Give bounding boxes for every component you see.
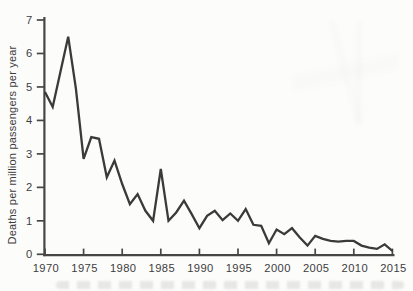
- y-tick-label: 2: [26, 181, 33, 193]
- y-tick-label: 5: [26, 81, 33, 93]
- x-tick-label: 1970: [33, 262, 60, 274]
- y-tick-label: 4: [26, 114, 33, 126]
- y-tick-label: 3: [26, 148, 33, 160]
- axes: [43, 17, 394, 256]
- y-tick-label: 0: [26, 248, 33, 260]
- x-tick-label: 2000: [264, 262, 291, 274]
- x-tick-label: 1990: [187, 262, 214, 274]
- y-axis-ticks: 01234567: [26, 14, 45, 260]
- y-axis-title: Deaths per million passengers per year: [6, 46, 18, 245]
- x-tick-label: 2015: [380, 262, 407, 274]
- y-tick-label: 7: [26, 14, 33, 26]
- y-tick-label: 6: [26, 47, 33, 59]
- scanned-page: 0123456719701975198019851990199520002005…: [0, 0, 413, 291]
- x-tick-label: 1980: [110, 262, 137, 274]
- x-tick-label: 2005: [303, 262, 330, 274]
- y-tick-label: 1: [26, 215, 33, 227]
- x-axis-ticks: 1970197519801985199019952000200520102015: [33, 249, 407, 274]
- x-tick-label: 2010: [342, 262, 369, 274]
- x-tick-label: 1975: [71, 262, 98, 274]
- x-tick-label: 1985: [149, 262, 176, 274]
- line-chart: 0123456719701975198019851990199520002005…: [0, 0, 413, 291]
- data-line-series: [45, 37, 392, 251]
- x-tick-label: 1995: [226, 262, 253, 274]
